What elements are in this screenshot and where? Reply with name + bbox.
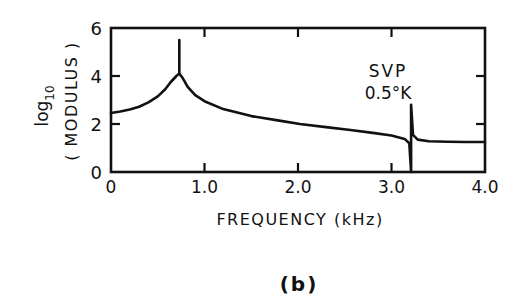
x-tick-label: 2.0	[284, 177, 311, 197]
x-tick-label: 4.0	[471, 177, 498, 197]
svg-text:log10: log10	[32, 85, 57, 126]
chart-figure: 01.02.03.04.0 0246 SVP 0.5°K FREQUENCY (…	[0, 0, 518, 304]
y-axis-title-subscript: 10	[43, 85, 57, 100]
y-tick-label: 4	[91, 66, 102, 87]
y-axis-title-modulus: ( MODULUS )	[62, 41, 81, 161]
annotation-svp-line1: SVP	[369, 61, 408, 81]
y-axis-title-log: log	[32, 101, 52, 127]
chart-container: 01.02.03.04.0 0246 SVP 0.5°K FREQUENCY (…	[0, 0, 518, 304]
y-tick-label: 2	[91, 114, 102, 135]
x-axis-title: FREQUENCY (kHz)	[216, 210, 383, 229]
x-tick-label: 3.0	[378, 177, 405, 197]
y-axis-title-line2: ( MODULUS )	[62, 41, 81, 161]
plot-border	[111, 28, 485, 172]
y-tick-label: 6	[91, 18, 102, 39]
plot-frame	[111, 28, 485, 172]
panel-label: (b)	[280, 272, 319, 296]
annotation-svp-line2: 0.5°K	[365, 83, 413, 103]
x-tick-labels: 01.02.03.04.0	[106, 177, 499, 197]
y-tick-label: 0	[91, 162, 102, 183]
axis-ticks	[111, 28, 485, 172]
y-tick-labels: 0246	[91, 18, 102, 183]
x-tick-label: 1.0	[191, 177, 218, 197]
x-tick-label: 0	[106, 177, 117, 197]
y-axis-title: log10	[32, 85, 57, 126]
data-series-line	[111, 40, 485, 172]
